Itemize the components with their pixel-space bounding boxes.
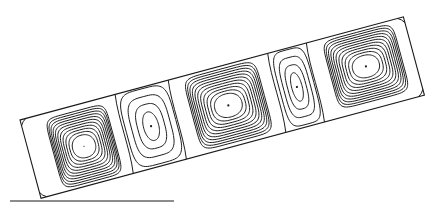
cell-center-marker xyxy=(365,65,368,68)
cell-divider xyxy=(303,43,327,122)
cell-center-marker xyxy=(296,86,299,89)
convection-cells xyxy=(20,17,424,198)
cell-center-marker xyxy=(83,146,84,147)
cell-5 xyxy=(321,17,425,117)
cell-1 xyxy=(20,94,136,198)
cell-4 xyxy=(270,43,328,131)
enclosure-outline xyxy=(20,17,424,198)
convection-cell-diagram xyxy=(0,0,438,213)
cell-divider xyxy=(265,53,289,132)
cell-divider xyxy=(165,80,189,159)
tilted-enclosure xyxy=(20,17,424,198)
cell-2 xyxy=(116,80,189,172)
cell-3 xyxy=(182,53,289,154)
cell-center-marker xyxy=(227,104,230,107)
cell-center-marker xyxy=(150,125,153,128)
diagram-canvas xyxy=(0,0,438,213)
